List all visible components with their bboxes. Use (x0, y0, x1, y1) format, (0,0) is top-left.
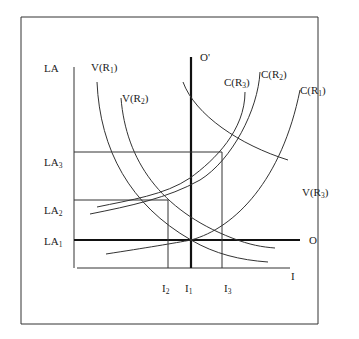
v-r3-label: V(R3) (302, 186, 329, 200)
c-r1-label: C(R1) (300, 84, 326, 98)
la3-label: LA3 (44, 156, 63, 170)
la1-label: LA1 (44, 235, 63, 249)
c-r3-label: C(R3) (224, 76, 250, 90)
o-prime-label: O' (200, 51, 210, 63)
c-r1-curve (106, 90, 300, 254)
v-r3-curve (183, 82, 288, 160)
i1-label: I1 (185, 282, 193, 296)
diagram-frame (21, 17, 318, 324)
c-r2-curve (90, 72, 260, 214)
y-axis-label: LA (44, 62, 59, 74)
v-r1-label: V(R1) (91, 61, 118, 75)
i3-label: I3 (224, 282, 232, 296)
x-axis-label: I (291, 270, 295, 282)
diagram-canvas: LA I LA3 LA2 LA1 I2 I1 I3 O O' V(R1) V(R… (0, 0, 359, 339)
la2-label: LA2 (44, 204, 63, 218)
c-r3-curve (97, 92, 245, 207)
c-r2-label: C(R2) (261, 68, 287, 82)
o-label: O (309, 234, 317, 246)
v-r2-curve (121, 98, 275, 248)
i2-label: I2 (162, 282, 170, 296)
v-r2-label: V(R2) (122, 92, 149, 106)
